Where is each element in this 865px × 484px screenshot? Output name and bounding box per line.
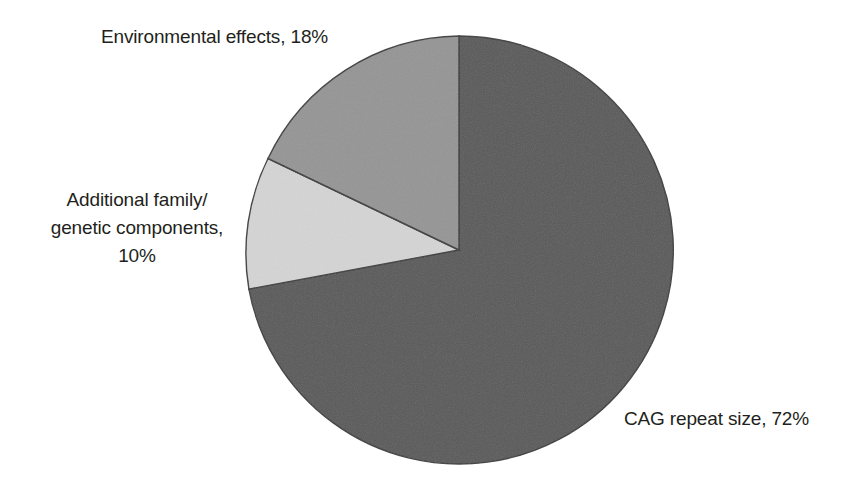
pie-label-cag-repeat-size: CAG repeat size, 72% (624, 405, 809, 433)
pie-label-additional-line-2: genetic components, (26, 214, 248, 242)
pie-label-additional-line-3: 10% (26, 242, 248, 270)
pie-label-additional-family-genetic-components: Additional family/ genetic components, 1… (26, 186, 248, 270)
pie-label-environmental-effects: Environmental effects, 18% (101, 23, 328, 51)
pie-label-additional-line-1: Additional family/ (26, 186, 248, 214)
pie-chart-canvas: Environmental effects, 18% Additional fa… (0, 0, 865, 484)
